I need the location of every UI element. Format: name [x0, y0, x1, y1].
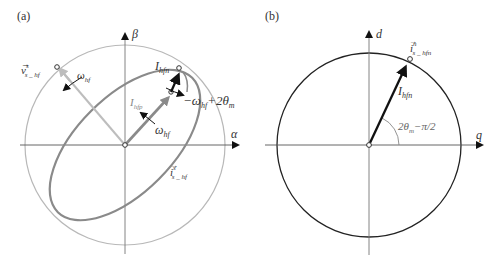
panel-b: (b) d q ins _ hfn → Ihfn 2θm−π/2: [265, 9, 482, 255]
voltage-tip-point: [55, 65, 60, 70]
origin-b: [367, 143, 372, 148]
ihfn-tip-point: [177, 66, 182, 71]
panel-a: (a) β α vss _ hf → ωhf Ihfn Ihfp ωhf −ωh…: [17, 9, 238, 254]
neg-rotation-label: −ωhf+2θm: [183, 93, 235, 110]
current-vector-arrow-glyph: →: [170, 161, 178, 170]
ihfp-label: Ihfp: [129, 96, 143, 111]
voltage-arrowhead: [60, 69, 70, 81]
ihfn-vector-b: [369, 68, 405, 145]
angle-label: 2θm−π/2: [398, 120, 436, 135]
current-vector-arrow-glyph-b: →: [409, 37, 417, 46]
omega-center-label: ωhf: [155, 123, 171, 139]
ihfn-vector: [171, 76, 178, 92]
figure-canvas: (a) β α vss _ hf → ωhf Ihfn Ihfp ωhf −ωh…: [0, 0, 494, 268]
panel-b-label: (b): [265, 9, 279, 23]
voltage-vector-arrow-glyph: →: [21, 59, 30, 69]
ihfn-label-b: Ihfn: [397, 84, 412, 100]
beta-label: β: [131, 27, 138, 41]
alpha-label: α: [231, 127, 238, 141]
omega-left-label: ωhf: [77, 69, 91, 84]
d-label: d: [376, 27, 383, 41]
panel-a-label: (a): [17, 9, 30, 23]
ihfn-tip-point-b: [408, 57, 413, 62]
q-label: q: [476, 128, 482, 142]
ihfn-label: Ihfn: [154, 59, 169, 75]
origin-a: [123, 143, 128, 148]
angle-arc: [382, 118, 399, 145]
